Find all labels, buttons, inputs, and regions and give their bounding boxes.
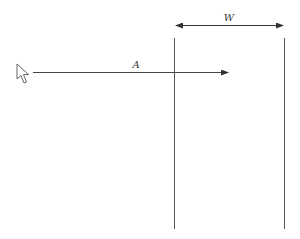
mouse-pointer-icon — [17, 64, 29, 83]
diagram-canvas: W A — [0, 0, 300, 239]
width-label: W — [224, 12, 235, 23]
arrow-label: A — [131, 59, 139, 70]
